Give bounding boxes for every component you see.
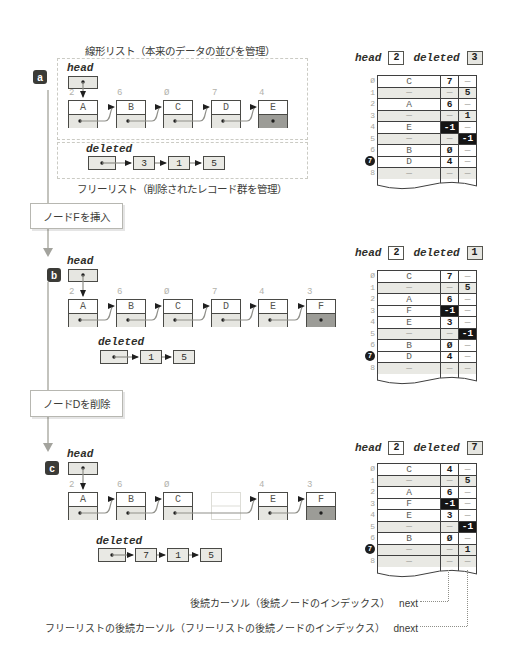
table-cell-n: 6 — [440, 487, 458, 498]
record-array: C7———5A6—F-1—E3———-1BØ—D4———— — [377, 270, 477, 374]
table-cell-v: C — [378, 271, 440, 282]
table-cell-d: — — [458, 363, 476, 374]
free-list-node: 1 — [168, 156, 190, 170]
node-index: 4 — [259, 480, 264, 490]
node-box: A — [68, 299, 98, 327]
figure-canvas: 線形リスト（本来のデータの並びを管理） フリーリスト（削除されたレコード群を管理… — [0, 0, 506, 653]
annotation-dnext-key: dnext — [394, 623, 418, 634]
node-index: 6 — [117, 480, 122, 490]
table-cell-v: F — [378, 306, 440, 317]
row-index: 3 — [364, 110, 377, 122]
node-letter: C — [164, 493, 192, 507]
table-cell-d: -1 — [458, 522, 476, 533]
row-index: 6 — [364, 339, 377, 351]
node-index: 4 — [259, 88, 264, 98]
table-cell-d: — — [458, 352, 476, 363]
node-box: B — [116, 492, 146, 520]
table-row: BØ— — [378, 339, 476, 351]
table-cell-v: — — [378, 556, 440, 567]
table-row: ——— — [378, 362, 476, 374]
node-index: 6 — [117, 287, 122, 297]
node-letter: A — [69, 101, 97, 115]
free-list-node: 1 — [140, 350, 162, 364]
deleted-value: 1 — [467, 246, 483, 260]
head-pointer-box — [68, 269, 98, 282]
linear-list-title: 線形リスト（本来のデータの並びを管理） — [85, 43, 275, 58]
table-cell-v: E — [378, 317, 440, 328]
table-cell-d: — — [458, 99, 476, 110]
dnext-annotation-connector — [420, 626, 467, 627]
deleted-label: deleted — [86, 143, 132, 155]
node-box: E — [258, 100, 288, 128]
node-next-cell — [117, 314, 145, 327]
table-row: E3— — [378, 316, 476, 328]
table-cell-d: 1 — [458, 111, 476, 122]
table-row: BØ— — [378, 144, 476, 156]
node-box: E — [258, 299, 288, 327]
table-row: C4— — [378, 464, 476, 475]
deleted-value: 3 — [467, 51, 483, 65]
row-index: 8 — [364, 167, 377, 179]
table-row: ——1 — [378, 110, 476, 122]
node-next-cell — [259, 507, 287, 520]
table-header: head 2 deleted 3 — [355, 50, 483, 65]
node-index: 2 — [69, 287, 74, 297]
table-cell-n: Ø — [440, 145, 458, 156]
table-cell-v: A — [378, 294, 440, 305]
row-index-circled: 7 — [365, 351, 375, 361]
head-value: 2 — [388, 246, 404, 260]
node-box: C — [163, 492, 193, 520]
table-index-gutter: Ø12345678 — [364, 463, 377, 567]
panel-marker-a: a — [33, 70, 47, 84]
node-next-cell — [212, 314, 240, 327]
table-row: ——-1 — [378, 521, 476, 533]
node-letter: A — [69, 493, 97, 507]
node-next-cell — [117, 115, 145, 128]
row-index-circled: 7 — [365, 156, 375, 166]
node-next-cell — [164, 314, 192, 327]
deleted-value: 7 — [467, 441, 483, 455]
table-cell-n: 4 — [440, 464, 458, 475]
row-index: 1 — [364, 282, 377, 294]
free-list-node: 5 — [200, 548, 222, 562]
node-next-null-cell — [307, 314, 335, 327]
node-index: 7 — [212, 88, 217, 98]
node-box: F — [306, 299, 336, 327]
table-row: E3— — [378, 509, 476, 521]
node-next-cell — [117, 507, 145, 520]
table-cell-v: — — [378, 363, 440, 374]
table-cell-d: -1 — [458, 329, 476, 340]
table-cell-n: — — [440, 522, 458, 533]
node-index: 3 — [307, 287, 312, 297]
node-index: Ø — [164, 88, 169, 98]
table-cell-n: 4 — [440, 157, 458, 168]
table-cell-n: — — [440, 111, 458, 122]
node-letter: A — [69, 300, 97, 314]
node-index: 3 — [307, 480, 312, 490]
annotation-next-text: 後続カーソル（後続ノードのインデックス） — [190, 598, 390, 609]
table-cell-n: 4 — [440, 352, 458, 363]
step-delete-d: ノードDを削除 — [30, 390, 123, 417]
row-index: 5 — [364, 133, 377, 145]
flow-arrowhead — [43, 248, 53, 257]
table-cell-d: — — [458, 556, 476, 567]
table-cell-d: -1 — [458, 134, 476, 145]
row-index: 6 — [364, 532, 377, 544]
table-row: ——-1 — [378, 133, 476, 145]
dnext-column-connector — [467, 570, 468, 626]
head-value: 2 — [388, 51, 404, 65]
node-index: 2 — [69, 88, 74, 98]
node-letter: B — [117, 300, 145, 314]
table-wave-cut — [377, 566, 477, 583]
table-cell-v: — — [378, 283, 440, 294]
table-cell-v: E — [378, 122, 440, 133]
node-letter: C — [164, 101, 192, 115]
table-cell-n: — — [440, 545, 458, 556]
node-next-cell — [259, 314, 287, 327]
table-row: C7— — [378, 76, 476, 87]
table-cell-d: 5 — [458, 88, 476, 99]
row-index: 5 — [364, 521, 377, 533]
node-letter: D — [212, 300, 240, 314]
table-cell-v: D — [378, 352, 440, 363]
table-cell-n: 6 — [440, 294, 458, 305]
